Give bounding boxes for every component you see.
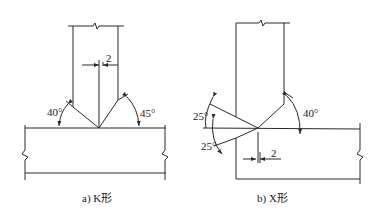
weld-groove-diagram: 2 40° 45° a) K形 2 25 xyxy=(0,0,382,217)
gap-dimension-label: 2 xyxy=(271,147,277,159)
angle-lower-left-label: 25° xyxy=(201,140,216,152)
break-line-top xyxy=(236,20,290,26)
vertical-plate-outline xyxy=(236,23,284,128)
horizontal-plate-lower-outline xyxy=(236,128,360,179)
angle-right-label: 45° xyxy=(140,107,155,119)
caption-b: b) X形 xyxy=(257,192,288,205)
gap-dimension-label: 2 xyxy=(106,52,112,64)
break-line-top xyxy=(68,23,124,29)
break-line-right xyxy=(162,125,168,180)
figure-a-k-groove: 2 40° 45° a) K形 xyxy=(22,23,168,205)
angle-right-label: 40° xyxy=(303,107,318,119)
break-line-left xyxy=(22,125,28,180)
figure-b-x-groove: 2 25° 25° 40° b) X形 xyxy=(193,20,363,205)
horizontal-plate-top xyxy=(203,128,360,129)
vertical-plate-outline xyxy=(73,26,118,128)
break-line-right xyxy=(357,123,363,184)
angle-upper-left-label: 25° xyxy=(193,110,208,122)
angle-left-label: 40° xyxy=(47,106,62,118)
caption-a: a) K形 xyxy=(82,192,112,205)
